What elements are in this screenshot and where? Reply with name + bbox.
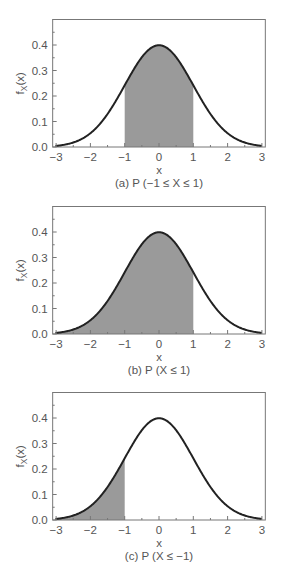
y-axis-title: fX(x)	[14, 445, 29, 467]
pdf-curve	[55, 418, 261, 519]
chart-c-svg: 0.00.10.20.30.4−3−2−10123x(c) P (X ≤ −1)…	[0, 0, 281, 582]
chart-caption: (c) P (X ≤ −1)	[125, 550, 194, 562]
y-tick-label: 0.3	[32, 438, 48, 450]
x-tick-label: −3	[50, 524, 63, 536]
y-tick-label: 0.4	[32, 412, 49, 424]
y-tick-label: 0.1	[32, 489, 48, 501]
x-tick-label: 1	[190, 524, 196, 536]
x-tick-label: −2	[84, 524, 97, 536]
shaded-area	[56, 458, 125, 520]
x-tick-label: −1	[118, 524, 131, 536]
chart-panel-c: 0.00.10.20.30.4−3−2−10123x(c) P (X ≤ −1)…	[0, 0, 281, 582]
x-tick-label: 2	[224, 524, 230, 536]
plot-frame	[53, 393, 266, 521]
x-tick-label: 0	[156, 524, 162, 536]
x-axis-title: x	[156, 537, 162, 549]
x-tick-label: 3	[259, 524, 265, 536]
y-tick-label: 0.2	[32, 463, 48, 475]
y-tick-label: 0.0	[32, 514, 48, 526]
